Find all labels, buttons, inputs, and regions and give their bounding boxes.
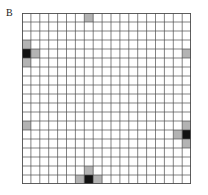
grid-cell-light <box>22 40 31 49</box>
grid-border <box>22 13 190 183</box>
grid-cell-light <box>75 175 84 184</box>
panel-label: B <box>6 8 13 18</box>
grid-cell-light <box>182 139 191 148</box>
grid-cell-dark <box>84 175 93 184</box>
grid-cell-light <box>182 121 191 130</box>
grid-cell-light <box>22 58 31 67</box>
grid-cell-light <box>93 175 102 184</box>
cell-fill-layer <box>22 13 191 184</box>
grid-line-layer <box>22 13 191 184</box>
grid-cell-light <box>173 130 182 139</box>
figure-panel: B <box>0 0 208 195</box>
grid-cell-light <box>84 13 93 22</box>
grid-cell-dark <box>182 130 191 139</box>
grid-cell-dark <box>22 49 31 58</box>
grid-cell-light <box>31 49 40 58</box>
grid-cell-light <box>182 49 191 58</box>
grid-cell-light <box>84 166 93 175</box>
grid-svg <box>22 13 191 184</box>
lattice-grid <box>22 13 191 184</box>
grid-cell-light <box>22 121 31 130</box>
